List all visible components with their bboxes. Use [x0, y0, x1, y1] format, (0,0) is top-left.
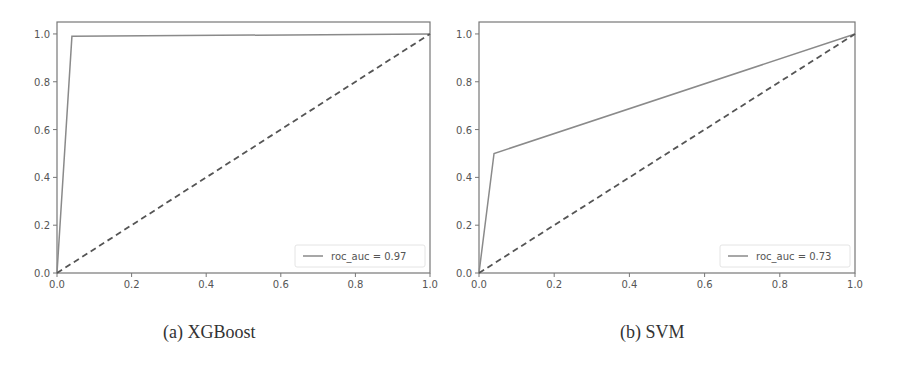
y-tick-label: 0.8: [456, 77, 472, 88]
legend-label: roc_auc = 0.73: [756, 251, 831, 263]
x-tick-label: 0.4: [621, 279, 637, 290]
x-tick-label: 0.0: [471, 279, 487, 290]
x-tick-label: 1.0: [847, 279, 863, 290]
axes-frame: [479, 22, 855, 273]
x-tick-label: 0.2: [546, 279, 562, 290]
caption-svm: (b) SVM: [620, 322, 685, 343]
y-tick-label: 0.6: [456, 125, 472, 136]
y-tick-label: 1.0: [456, 29, 472, 40]
x-tick-label: 0.6: [697, 279, 713, 290]
y-tick-label: 0.4: [456, 172, 472, 183]
roc-plot-svm: 0.00.20.40.60.81.00.00.20.40.60.81.0roc_…: [0, 0, 897, 300]
x-tick-label: 0.8: [772, 279, 788, 290]
caption-xgboost: (a) XGBoost: [163, 322, 256, 343]
y-tick-label: 0.2: [456, 220, 472, 231]
y-tick-label: 0.0: [456, 268, 472, 279]
